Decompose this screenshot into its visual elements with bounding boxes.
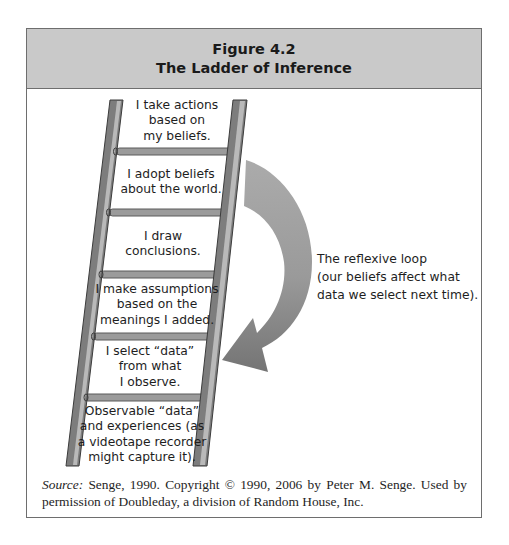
- caption-line: The reflexive loop: [317, 250, 478, 268]
- source-text: Senge, 1990. Copyright © 1990, 2006 by P…: [42, 477, 467, 509]
- caption-line: (our beliefs affect what: [317, 268, 478, 286]
- ladder-text-line: conclusions.: [125, 244, 201, 259]
- ladder-step-observable-data: Observable “data” and experiences (as a …: [78, 404, 207, 465]
- ladder-text-line: and experiences (as: [78, 419, 207, 434]
- ladder-step-adopt-beliefs: I adopt beliefs about the world.: [120, 167, 221, 198]
- ladder-text-line: I draw: [125, 229, 201, 244]
- rung-2: [109, 209, 232, 216]
- ladder-step-select-data: I select “data” from what I observe.: [106, 344, 194, 390]
- ladder-text-line: might capture it).: [78, 450, 207, 465]
- ladder-text-line: from what: [106, 359, 194, 374]
- ladder-text-line: I take actions: [136, 98, 218, 113]
- ladder-step-make-assumptions: I make assumptions based on the meanings…: [95, 282, 218, 328]
- ladder-text-line: I select “data”: [106, 344, 194, 359]
- ladder-text-line: Observable “data”: [78, 404, 207, 419]
- ladder-text-line: my beliefs.: [136, 129, 218, 144]
- ladder-text-line: meanings I added.: [95, 313, 218, 328]
- rung-5: [84, 394, 212, 401]
- rung-3: [100, 271, 225, 278]
- ladder-text-line: a videotape recorder: [78, 435, 207, 450]
- ladder-text-line: about the world.: [120, 182, 221, 197]
- rung-1: [116, 148, 237, 155]
- source-label: Source:: [42, 477, 83, 492]
- rung-4: [93, 333, 219, 340]
- source-note: Source: Senge, 1990. Copyright © 1990, 2…: [42, 477, 467, 510]
- ladder-text-line: I observe.: [106, 375, 194, 390]
- ladder-step-draw-conclusions: I draw conclusions.: [125, 229, 201, 260]
- ladder-text-line: I make assumptions: [95, 282, 218, 297]
- ladder-step-take-actions: I take actions based on my beliefs.: [136, 98, 218, 144]
- ladder-text-line: I adopt beliefs: [120, 167, 221, 182]
- reflexive-loop-caption: The reflexive loop (our beliefs affect w…: [317, 250, 478, 304]
- ladder-text-line: based on the: [95, 297, 218, 312]
- caption-line: data we select next time).: [317, 286, 478, 304]
- ladder-text-line: based on: [136, 113, 218, 128]
